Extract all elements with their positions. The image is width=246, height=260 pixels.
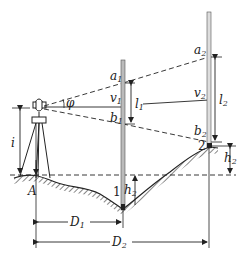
label-a1: a1 [110, 69, 122, 84]
label-point-2: 2 [198, 139, 206, 153]
label-station-A: A [27, 184, 37, 198]
label-i: i [11, 136, 15, 150]
label-point-1: 1 [113, 185, 121, 199]
label-b2: b2 [194, 124, 207, 139]
label-v2: v2 [194, 86, 206, 101]
theodolite-icon [20, 99, 50, 178]
label-l2: l2 [219, 93, 228, 108]
label-phi: φ [66, 96, 75, 110]
label-l1: l1 [135, 97, 144, 112]
label-h2: h2 [224, 151, 237, 166]
ground-profile [14, 147, 218, 215]
label-a2: a2 [194, 43, 206, 58]
stadia-diagram: i A φ a1 v1 b1 l1 a2 v2 b2 l2 1 [0, 0, 246, 260]
leveling-rod-2 [207, 12, 211, 148]
label-v1: v1 [110, 91, 122, 106]
